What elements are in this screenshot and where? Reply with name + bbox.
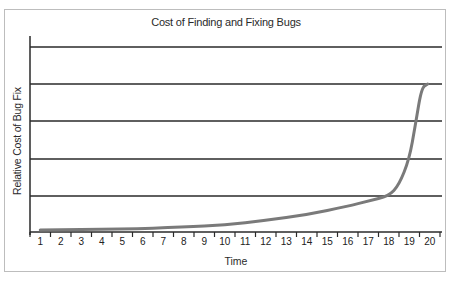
x-tick-label: 20	[424, 236, 436, 247]
x-tick-label: 4	[99, 236, 105, 247]
x-tick-label: 7	[160, 236, 166, 247]
x-tick-label: 6	[140, 236, 146, 247]
cost-curve	[40, 84, 427, 230]
x-tick-label: 18	[383, 236, 395, 247]
x-tick-label: 9	[201, 236, 207, 247]
x-tick-label: 19	[404, 236, 416, 247]
x-tick-label: 12	[260, 236, 272, 247]
x-tick-label: 1	[37, 236, 43, 247]
plot-area: 1234567891011121314151617181920	[0, 0, 452, 281]
x-tick-label: 2	[58, 236, 64, 247]
x-tick-label: 3	[78, 236, 84, 247]
x-tick-label: 15	[322, 236, 334, 247]
data-series	[40, 84, 427, 230]
x-tick-label: 13	[281, 236, 293, 247]
x-tick-label: 14	[301, 236, 313, 247]
gridlines	[30, 47, 442, 196]
x-tick-label: 5	[119, 236, 125, 247]
x-tick-label: 10	[219, 236, 231, 247]
x-tick-label: 16	[342, 236, 354, 247]
x-axis-ticks: 1234567891011121314151617181920	[30, 232, 440, 247]
x-tick-label: 11	[240, 236, 251, 247]
x-tick-label: 17	[363, 236, 375, 247]
axes	[30, 36, 442, 235]
x-tick-label: 8	[181, 236, 187, 247]
